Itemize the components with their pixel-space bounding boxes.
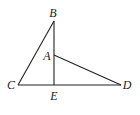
point-label-A: A (42, 49, 51, 63)
segments (18, 21, 121, 85)
point-label-B: B (49, 6, 57, 20)
point-labels: BACED (7, 6, 132, 103)
geometry-diagram: BACED (0, 0, 140, 115)
point-label-D: D (122, 78, 132, 92)
point-label-C: C (7, 78, 16, 92)
segment-AD (54, 55, 121, 85)
point-label-E: E (49, 89, 58, 103)
